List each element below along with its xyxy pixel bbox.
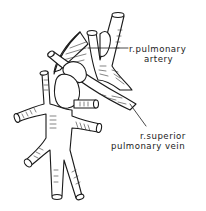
- label-superior-vein-line2: pulmonary vein: [111, 141, 186, 151]
- upper-bronchus: [87, 13, 132, 91]
- label-superior-vein: r.superior pulmonary vein: [127, 131, 186, 151]
- label-pulmonary-artery: r.pulmonary artery: [129, 44, 186, 64]
- label-superior-vein-line1: r.superior: [127, 131, 186, 141]
- label-pulmonary-artery-line1: r.pulmonary: [129, 44, 186, 54]
- anatomy-illustration: [0, 0, 206, 211]
- leader-line-vein: [130, 104, 146, 126]
- label-pulmonary-artery-line2: artery: [129, 54, 186, 64]
